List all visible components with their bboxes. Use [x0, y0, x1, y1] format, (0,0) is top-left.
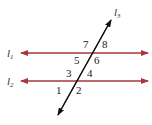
parallel-lines-diagram: l1 l2 l3 7 8 5 6 3 4 1 2 — [0, 0, 152, 125]
angle-3: 3 — [66, 67, 72, 79]
angle-1: 1 — [56, 84, 62, 96]
line-l3: l3 — [58, 6, 121, 115]
angle-8: 8 — [102, 38, 108, 50]
line-l1-label: l1 — [7, 47, 14, 61]
angle-7: 7 — [83, 38, 89, 50]
line-l3-label: l3 — [114, 6, 121, 20]
angle-6: 6 — [94, 54, 100, 66]
angle-4: 4 — [87, 67, 93, 79]
angle-2: 2 — [76, 84, 82, 96]
angle-5: 5 — [74, 54, 80, 66]
line-l2-label: l2 — [7, 75, 14, 89]
